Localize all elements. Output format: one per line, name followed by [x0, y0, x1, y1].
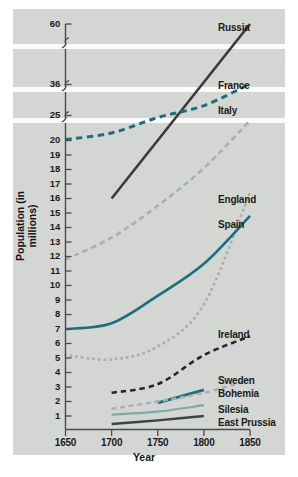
x-tick-label-1800: 1800: [187, 437, 221, 448]
series-line-spain: [66, 216, 251, 329]
x-tick-label-1700: 1700: [95, 437, 129, 448]
y-tick-label-14: 14: [38, 221, 60, 232]
series-label-sweden: Sweden: [218, 375, 255, 386]
y-tick-label-60: 60: [38, 18, 60, 29]
y-axis-title: Population (in millions): [14, 174, 38, 278]
y-tick-label-11: 11: [38, 265, 60, 276]
y-tick-label-2: 2: [38, 395, 60, 406]
y-tick-label-3: 3: [38, 381, 60, 392]
y-tick-label-20: 20: [38, 134, 60, 145]
y-tick-label-17: 17: [38, 178, 60, 189]
y-tick-label-1: 1: [38, 410, 60, 421]
series-label-england: England: [218, 194, 256, 205]
x-tick-marks-group: [66, 430, 251, 437]
x-axis-title: Year: [104, 451, 184, 463]
y-tick-label-5: 5: [38, 352, 60, 363]
y-tick-label-16: 16: [38, 192, 60, 203]
y-tick-label-7: 7: [38, 323, 60, 334]
series-line-silesia: [112, 405, 204, 414]
series-label-east-prussia: East Prussia: [218, 417, 276, 428]
series-label-bohemia: Bohemia: [218, 388, 259, 399]
y-tick-label-12: 12: [38, 250, 60, 261]
y-tick-label-18: 18: [38, 163, 60, 174]
series-label-silesia: Silesia: [218, 404, 248, 415]
x-tick-label-1850: 1850: [233, 437, 267, 448]
series-label-france: France: [218, 80, 250, 91]
series-label-russia: Russia: [218, 22, 250, 33]
y-tick-label-4: 4: [38, 366, 60, 377]
y-tick-label-19: 19: [38, 149, 60, 160]
y-tick-label-25: 25: [38, 109, 60, 120]
y-tick-label-10: 10: [38, 279, 60, 290]
series-label-italy: Italy: [218, 105, 237, 116]
series-label-ireland: Ireland: [218, 329, 249, 340]
population-growth-chart-figure: 6036252019181716151413121110987654321 16…: [0, 0, 298, 477]
y-tick-label-36: 36: [38, 78, 60, 89]
y-tick-label-15: 15: [38, 207, 60, 218]
x-tick-label-1750: 1750: [141, 437, 175, 448]
y-tick-label-6: 6: [38, 337, 60, 348]
x-tick-label-1650: 1650: [49, 437, 83, 448]
series-label-spain: Spain: [218, 219, 244, 230]
series-line-east-prussia: [112, 416, 204, 424]
y-tick-label-9: 9: [38, 294, 60, 305]
y-tick-label-13: 13: [38, 236, 60, 247]
y-tick-label-8: 8: [38, 308, 60, 319]
